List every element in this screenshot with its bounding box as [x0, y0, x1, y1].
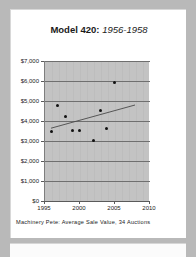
x-axis-tick-label: 2005 — [99, 205, 129, 212]
x-axis-tick — [114, 201, 115, 204]
chart-caption: Machinery Pete: Average Sale Value, 34 A… — [16, 219, 186, 225]
y-axis-tick-label: $7,000 — [0, 58, 39, 64]
y-axis-tick-label: $0 — [0, 198, 39, 204]
data-point — [105, 127, 108, 130]
data-point — [50, 130, 53, 133]
chart-card: Model 420: 1956-1958 $0$1,000$2,000$3,00… — [10, 9, 186, 238]
y-axis-tick — [41, 141, 44, 142]
y-axis-tick — [41, 101, 44, 102]
bottom-strip — [10, 243, 186, 257]
y-axis-tick — [41, 161, 44, 162]
y-axis-tick-label: $3,000 — [0, 138, 39, 144]
trendline — [44, 61, 149, 201]
data-point — [113, 81, 116, 84]
y-axis-tick-label: $1,000 — [0, 178, 39, 184]
y-axis-tick-label: $6,000 — [0, 78, 39, 84]
data-point — [92, 139, 95, 142]
y-axis-tick — [41, 181, 44, 182]
y-axis-tick-label: $4,000 — [0, 118, 39, 124]
y-axis-tick-label: $2,000 — [0, 158, 39, 164]
x-axis-tick-label: 1995 — [29, 205, 59, 212]
x-axis-line — [44, 201, 150, 202]
x-axis-tick — [44, 201, 45, 204]
data-point — [78, 129, 81, 132]
x-axis-tick-label: 2010 — [134, 205, 164, 212]
data-point — [64, 115, 67, 118]
x-axis-tick — [149, 201, 150, 204]
y-axis-tick — [41, 121, 44, 122]
y-axis-tick-label: $5,000 — [0, 98, 39, 104]
x-axis-tick — [79, 201, 80, 204]
y-axis-tick — [41, 61, 44, 62]
x-axis-tick-label: 2000 — [64, 205, 94, 212]
y-axis-tick — [41, 81, 44, 82]
plot-wrapper: $0$1,000$2,000$3,000$4,000$5,000$6,000$7… — [11, 10, 187, 239]
data-point — [71, 129, 74, 132]
